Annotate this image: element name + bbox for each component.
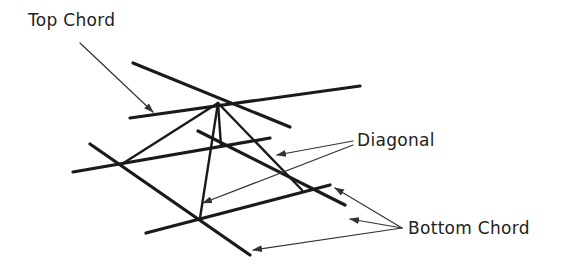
- bottom-chord-label: Bottom Chord: [408, 220, 530, 237]
- top-chord-label: Top Chord: [28, 12, 115, 29]
- bottom-chord-left: [90, 144, 250, 255]
- leader-arrows-group: [80, 43, 402, 250]
- leader-top-chord: [80, 43, 153, 112]
- truss-diagram: Top Chord Diagonal Bottom Chord: [0, 0, 567, 273]
- diagonal-label: Diagonal: [357, 132, 435, 149]
- bottom-chord-front: [146, 185, 330, 233]
- top-chord-group: [130, 63, 360, 127]
- leader-bottom-chord-3: [253, 228, 402, 250]
- leader-diagonal-2: [203, 145, 353, 203]
- top-chord-2: [133, 63, 290, 127]
- top-chord-1: [130, 86, 360, 118]
- bottom-chord-back: [73, 138, 270, 172]
- leader-diagonal-1: [277, 141, 353, 155]
